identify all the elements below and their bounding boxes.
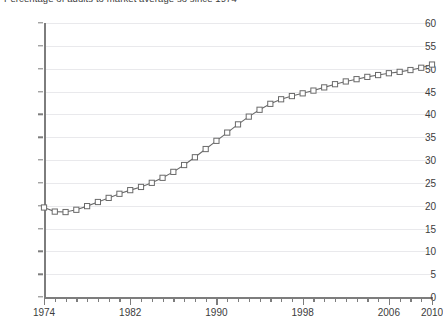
data-point-marker (41, 205, 46, 210)
series-line (44, 65, 432, 213)
data-point-marker (332, 82, 337, 87)
data-point-marker (106, 195, 111, 200)
data-point-marker (182, 162, 187, 167)
data-point-marker (311, 88, 316, 93)
data-point-marker (397, 69, 402, 74)
data-point-marker (376, 72, 381, 77)
data-point-marker (343, 79, 348, 84)
data-point-marker (408, 67, 413, 72)
data-point-marker (63, 209, 68, 214)
data-point-marker (85, 204, 90, 209)
data-point-marker (279, 97, 284, 102)
data-point-marker (365, 74, 370, 79)
data-point-marker (214, 138, 219, 143)
data-point-marker (419, 65, 424, 70)
data-point-marker (171, 169, 176, 174)
data-point-marker (246, 114, 251, 119)
data-point-marker (52, 209, 57, 214)
data-point-marker (138, 184, 143, 189)
data-point-marker (160, 175, 165, 180)
data-point-marker (268, 101, 273, 106)
data-point-marker (95, 199, 100, 204)
data-point-marker (429, 62, 434, 67)
data-point-marker (386, 71, 391, 76)
data-point-marker (289, 93, 294, 98)
data-point-marker (300, 91, 305, 96)
data-point-marker (128, 188, 133, 193)
data-point-marker (354, 77, 359, 82)
data-point-marker (203, 146, 208, 151)
data-point-marker (192, 155, 197, 160)
data-point-marker (74, 207, 79, 212)
series-markers (41, 62, 434, 215)
data-point-marker (235, 122, 240, 127)
data-point-marker (257, 107, 262, 112)
data-point-marker (117, 191, 122, 196)
data-point-marker (322, 85, 327, 90)
data-point-marker (149, 180, 154, 185)
data-point-marker (225, 130, 230, 135)
